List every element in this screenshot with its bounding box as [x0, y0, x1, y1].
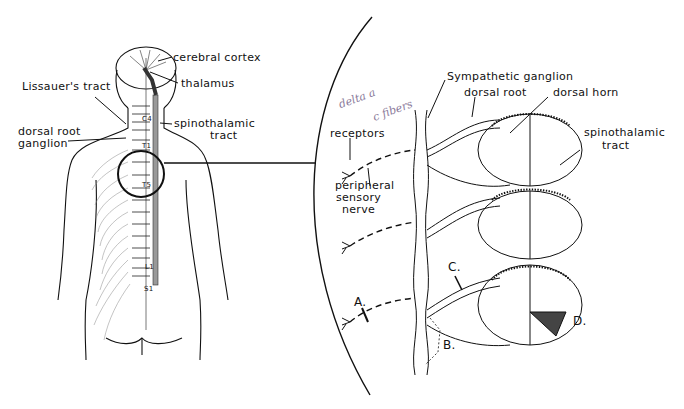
label-cerebral-cortex: cerebral cortex — [173, 52, 261, 63]
cord-sections — [427, 114, 582, 346]
label-dorsal-root-ganglion-line1: dorsal root — [18, 126, 81, 137]
label-level-t5: T5 — [142, 180, 151, 191]
label-marker-b: B. — [443, 340, 456, 351]
label-level-l1: L1 — [145, 262, 154, 273]
label-dorsal-root-ganglion-line2: ganglion — [18, 138, 68, 149]
label-thalamus: thalamus — [181, 78, 235, 89]
label-marker-a: A. — [354, 297, 366, 308]
label-peripheral-line3: nerve — [342, 204, 375, 215]
label-sympathetic-ganglion: Sympathetic ganglion — [447, 71, 573, 82]
marker-c-cut — [455, 276, 462, 290]
label-peripheral-line1: peripheral — [335, 180, 394, 191]
left-leader-lines — [68, 57, 178, 141]
label-dorsal-root: dorsal root — [464, 87, 527, 98]
spinal-nerve-roots — [132, 106, 150, 276]
gray-matter-hatching — [492, 114, 570, 280]
label-level-c4: C4 — [142, 114, 152, 125]
label-spinothalamic-left-line1: spinothalamic — [174, 118, 255, 129]
dermatome-nerves — [92, 150, 130, 340]
label-level-s1: S1 — [144, 284, 154, 295]
label-marker-d: D. — [573, 316, 587, 327]
label-lissauers-tract: Lissauer's tract — [22, 81, 111, 92]
sympathetic-chain — [414, 110, 429, 375]
label-receptors: receptors — [330, 128, 385, 139]
label-spinothalamic-left-line2: tract — [210, 130, 237, 141]
body-outline — [58, 47, 228, 360]
label-marker-c: C. — [448, 262, 461, 273]
label-spinothalamic-right-line2: tract — [602, 140, 629, 151]
marker-d-lesion — [530, 312, 566, 336]
label-dorsal-horn: dorsal horn — [553, 87, 619, 98]
label-level-t1: T1 — [142, 141, 151, 152]
label-spinothalamic-right-line1: spinothalamic — [584, 127, 665, 138]
label-peripheral-line2: sensory — [336, 192, 381, 203]
